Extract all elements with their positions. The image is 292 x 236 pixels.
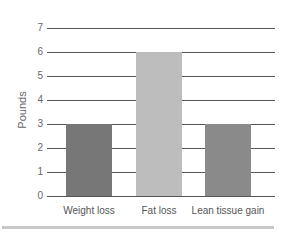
gridline xyxy=(47,196,275,197)
y-axis-label: Pounds xyxy=(16,90,28,130)
bar-weight-loss xyxy=(66,124,112,196)
bar-fat-loss xyxy=(136,52,182,196)
y-tick-label: 0 xyxy=(31,190,43,201)
x-tick-label: Lean tissue gain xyxy=(178,205,278,216)
y-tick-label: 6 xyxy=(31,46,43,57)
bottom-rule xyxy=(2,226,274,229)
y-tick-label: 1 xyxy=(31,166,43,177)
y-tick-label: 7 xyxy=(31,22,43,33)
y-tick-label: 3 xyxy=(31,118,43,129)
y-tick-label: 5 xyxy=(31,70,43,81)
y-tick-label: 2 xyxy=(31,142,43,153)
bar-chart: Pounds 01234567 Weight lossFat lossLean … xyxy=(0,0,292,236)
bar-lean-tissue-gain xyxy=(205,124,251,196)
gridline xyxy=(47,28,275,29)
y-tick-label: 4 xyxy=(31,94,43,105)
